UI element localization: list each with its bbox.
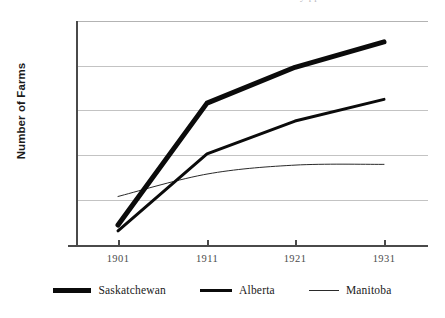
series-layer (0, 0, 445, 318)
legend-swatch-manitoba (309, 290, 339, 291)
legend-entry-manitoba[interactable]: Manitoba (309, 284, 392, 296)
series-line-alberta (118, 99, 384, 230)
legend-label-saskatchewan: Saskatchewan (98, 284, 166, 296)
chart-figure: y pp Number of Farms 150,000 120,000 90,… (0, 0, 445, 318)
legend-entry-alberta[interactable]: Alberta (200, 284, 275, 296)
chart-legend: Saskatchewan Alberta Manitoba (0, 284, 445, 296)
legend-label-manitoba: Manitoba (346, 284, 392, 296)
legend-entry-saskatchewan[interactable]: Saskatchewan (53, 284, 166, 296)
legend-swatch-alberta (200, 289, 232, 292)
legend-label-alberta: Alberta (239, 284, 275, 296)
legend-swatch-saskatchewan (53, 288, 91, 293)
